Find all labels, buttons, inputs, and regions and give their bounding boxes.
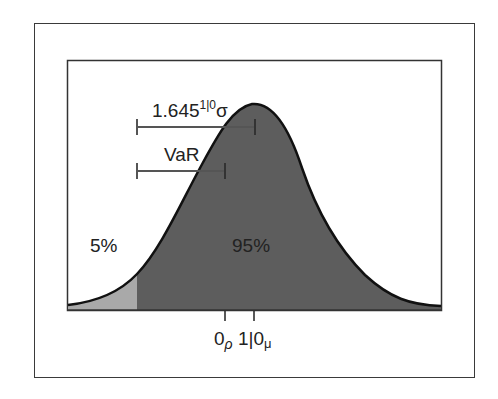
tick-label-mu: 1|0μ xyxy=(238,328,272,351)
tick-label-rho: 0ρ xyxy=(214,328,233,352)
sigma-bar-label: 1.6451|0σ xyxy=(152,98,228,121)
distribution-diagram: 1.6451|0σ VaR 5% 95% 0ρ 1|0μ xyxy=(0,0,498,399)
var-label: VaR xyxy=(164,144,200,165)
tail-percent-label: 5% xyxy=(90,235,118,256)
body-percent-label: 95% xyxy=(232,235,270,256)
